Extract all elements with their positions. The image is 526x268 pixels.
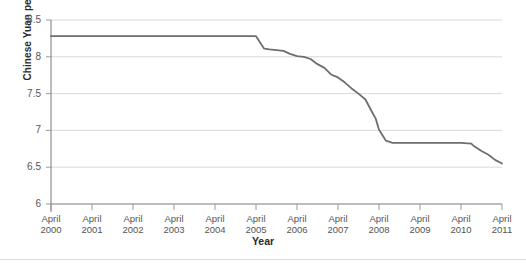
chart-container: Chinese Yuan per Dollar 66.577.588.5 Apr… [0,0,526,268]
x-tick-year: 2006 [286,224,307,235]
figure-bottom-rule [0,259,526,260]
x-tick-year: 2010 [450,224,471,235]
x-tick-year: 2011 [492,224,512,235]
x-tick-month: April [287,213,306,224]
y-tick-label: 8 [7,51,41,62]
x-tick-month: April [123,213,142,224]
y-tick-label: 7 [7,124,41,135]
x-tick-month: April [82,213,101,224]
x-tick-year: 2000 [40,224,61,235]
x-tick-label: April2011 [478,213,526,235]
x-tick-year: 2001 [81,224,102,235]
x-tick-year: 2004 [204,224,225,235]
x-tick-year: 2009 [409,224,430,235]
x-tick-year: 2008 [368,224,389,235]
x-tick-month: April [246,213,265,224]
x-tick-month: April [369,213,388,224]
x-tick-month: April [205,213,224,224]
y-tick-label: 6.5 [7,161,41,172]
x-tick-year: 2002 [122,224,143,235]
x-tick-year: 2005 [245,224,266,235]
x-tick-month: April [328,213,347,224]
y-tick-label: 6 [7,198,41,209]
x-axis-title: Year [0,235,526,247]
x-tick-year: 2003 [163,224,184,235]
data-series-line [51,36,502,163]
y-tick-label: 8.5 [7,14,41,25]
x-tick-month: April [451,213,470,224]
y-tick-label: 7.5 [7,88,41,99]
x-tick-month: April [410,213,429,224]
x-tick-month: April [41,213,60,224]
x-tick-year: 2007 [327,224,348,235]
x-tick-month: April [164,213,183,224]
x-tick-month: April [492,213,511,224]
